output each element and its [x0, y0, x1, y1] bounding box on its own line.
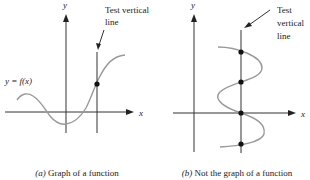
panel-b-y-axis-arrow-icon: [191, 14, 197, 22]
panel-b-caption-letter: (b): [182, 168, 193, 178]
panel-a: y x Test vertical line y = f(x) (a) Grap…: [4, 0, 150, 178]
panel-b-caption: (b) Not the graph of a function: [182, 168, 293, 178]
panel-a-annotation-arrow: [99, 30, 104, 45]
panel-a-caption-text: Graph of a function: [46, 168, 119, 178]
panel-a-annotation-arrowhead-icon: [96, 43, 101, 50]
panel-b-annotation-arrow: [249, 10, 270, 25]
panel-a-function-label: y = f(x): [4, 76, 32, 86]
panel-a-function-curve: [17, 55, 125, 124]
panel-b: y x Test vertical line (b) Not the graph…: [173, 0, 305, 178]
panel-b-y-label: y: [190, 0, 195, 10]
panel-b-intersection-dot-4: [238, 141, 243, 146]
panel-a-y-axis-arrow-icon: [63, 14, 69, 22]
panel-a-x-axis-arrow-icon: [126, 109, 134, 115]
panel-b-intersection-dot-1: [238, 49, 243, 54]
panel-a-x-label: x: [138, 108, 143, 118]
panel-b-x-label: x: [300, 109, 305, 119]
panel-b-annotation-line1: Test: [277, 5, 292, 15]
vertical-line-test-figure: y x Test vertical line y = f(x) (a) Grap…: [0, 0, 310, 180]
panel-a-y-label: y: [62, 0, 67, 10]
panel-b-annotation-line3: line: [277, 31, 291, 41]
panel-b-intersection-dot-2: [238, 79, 243, 84]
panel-a-caption: (a) Graph of a function: [35, 168, 119, 178]
panel-b-intersection-dot-3: [238, 110, 243, 115]
panel-b-annotation-arrowhead-icon: [244, 22, 252, 28]
panel-a-annotation-line1: Test vertical: [105, 5, 150, 15]
panel-a-intersection-dot: [94, 81, 99, 86]
panel-a-caption-letter: (a): [35, 168, 46, 178]
panel-b-annotation-line2: vertical: [277, 18, 304, 28]
panel-a-annotation-line2: line: [105, 17, 119, 27]
panel-b-x-axis-arrow-icon: [288, 110, 296, 116]
panel-b-caption-text: Not the graph of a function: [192, 168, 292, 178]
